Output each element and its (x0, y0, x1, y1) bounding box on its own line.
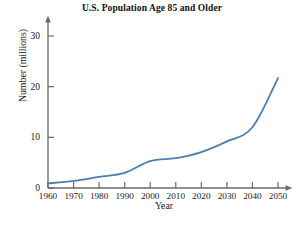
x-axis-ticks (48, 182, 278, 188)
x-axis-title: Year (48, 200, 280, 211)
y-axis-arrow-icon (45, 16, 51, 23)
y-axis-title: Number (millions) (17, 18, 28, 114)
y-tick-label-0: 0 (22, 183, 40, 193)
x-axis-arrow-icon (286, 185, 293, 191)
y-tick-label-10: 10 (22, 132, 40, 142)
chart-figure: U.S. Population Age 85 and Older (0, 0, 304, 225)
data-series-line (48, 78, 278, 183)
y-axis-ticks (48, 36, 54, 188)
